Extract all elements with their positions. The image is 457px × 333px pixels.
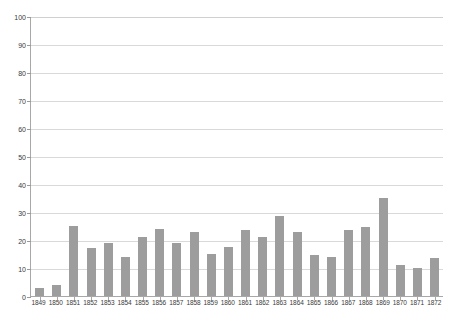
bar-slot: [151, 17, 168, 296]
bar: [275, 216, 284, 296]
x-axis-tick-label: 1865: [305, 300, 322, 307]
bar: [258, 237, 267, 296]
bar-slot: [392, 17, 409, 296]
plot-area: [30, 17, 443, 297]
bar: [241, 230, 250, 296]
y-axis-tick-label: 10: [4, 266, 26, 273]
bar-slot: [65, 17, 82, 296]
x-axis-labels: 1849185018511852185318541855185618571858…: [30, 300, 443, 307]
bar-slot: [374, 17, 391, 296]
bar: [35, 288, 44, 296]
bar-slot: [426, 17, 443, 296]
bar-slot: [340, 17, 357, 296]
bar: [172, 243, 181, 296]
y-axis-tick-label: 0: [4, 294, 26, 301]
x-axis-tick-label: 1860: [219, 300, 236, 307]
x-axis-tick-label: 1871: [408, 300, 425, 307]
bar: [224, 247, 233, 296]
x-axis-tick-label: 1850: [47, 300, 64, 307]
x-axis-tick-label: 1856: [150, 300, 167, 307]
x-axis-tick-label: 1854: [116, 300, 133, 307]
x-axis-tick-label: 1853: [99, 300, 116, 307]
bar-slot: [306, 17, 323, 296]
bar: [396, 265, 405, 296]
bar-slot: [220, 17, 237, 296]
x-axis-tick-label: 1862: [254, 300, 271, 307]
bar-slot: [289, 17, 306, 296]
x-axis-tick-label: 1867: [340, 300, 357, 307]
bar-slot: [357, 17, 374, 296]
bar: [155, 229, 164, 296]
x-axis-tick-label: 1870: [391, 300, 408, 307]
bar-slot: [117, 17, 134, 296]
bar-slot: [409, 17, 426, 296]
x-axis-tick-label: 1869: [374, 300, 391, 307]
x-axis-tick-label: 1858: [185, 300, 202, 307]
y-axis-tick-label: 90: [4, 42, 26, 49]
bar-series: [31, 17, 443, 296]
y-axis-tick-label: 80: [4, 70, 26, 77]
y-axis-tick-label: 100: [4, 14, 26, 21]
y-axis-tick-label: 60: [4, 126, 26, 133]
bar: [207, 254, 216, 296]
bar-slot: [31, 17, 48, 296]
y-tick-0: [27, 297, 31, 298]
bar: [413, 268, 422, 296]
x-axis-tick-label: 1855: [133, 300, 150, 307]
bar: [310, 255, 319, 296]
bar-slot: [271, 17, 288, 296]
bar-slot: [168, 17, 185, 296]
bar: [190, 232, 199, 296]
x-axis-tick-label: 1857: [168, 300, 185, 307]
bar: [104, 243, 113, 296]
x-axis-tick-label: 1852: [82, 300, 99, 307]
x-axis-tick-label: 1868: [357, 300, 374, 307]
bar-slot: [134, 17, 151, 296]
bar-slot: [100, 17, 117, 296]
x-axis-tick-label: 1859: [202, 300, 219, 307]
bar-chart: 1009080706050403020100 18491850185118521…: [0, 0, 457, 333]
bar: [52, 285, 61, 296]
x-axis-tick-label: 1866: [322, 300, 339, 307]
y-axis-labels: 1009080706050403020100: [0, 17, 26, 297]
bar: [121, 257, 130, 296]
x-axis-tick-label: 1849: [30, 300, 47, 307]
y-axis-tick-label: 30: [4, 210, 26, 217]
bar: [344, 230, 353, 296]
bar: [293, 232, 302, 296]
bar: [87, 248, 96, 296]
bar-slot: [83, 17, 100, 296]
bar: [361, 227, 370, 296]
bar-slot: [186, 17, 203, 296]
y-axis-tick-label: 70: [4, 98, 26, 105]
x-axis-tick-label: 1851: [64, 300, 81, 307]
x-axis-tick-label: 1863: [271, 300, 288, 307]
bar-slot: [323, 17, 340, 296]
x-axis-tick-label: 1864: [288, 300, 305, 307]
bar: [69, 226, 78, 296]
bar: [430, 258, 439, 296]
bar: [327, 257, 336, 296]
bar: [138, 237, 147, 296]
bar: [379, 198, 388, 296]
y-axis-tick-label: 50: [4, 154, 26, 161]
bar-slot: [237, 17, 254, 296]
bar-slot: [48, 17, 65, 296]
x-axis-tick-label: 1872: [426, 300, 443, 307]
y-axis-tick-label: 40: [4, 182, 26, 189]
bar-slot: [254, 17, 271, 296]
y-axis-tick-label: 20: [4, 238, 26, 245]
bar-slot: [203, 17, 220, 296]
x-axis-tick-label: 1861: [236, 300, 253, 307]
